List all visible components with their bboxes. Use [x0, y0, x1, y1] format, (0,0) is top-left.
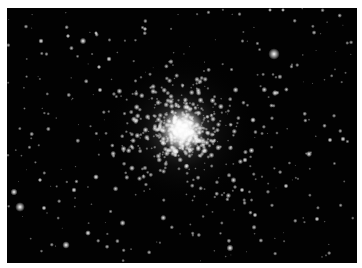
starfield-canvas — [7, 8, 357, 263]
star-cluster-photo — [7, 8, 357, 263]
